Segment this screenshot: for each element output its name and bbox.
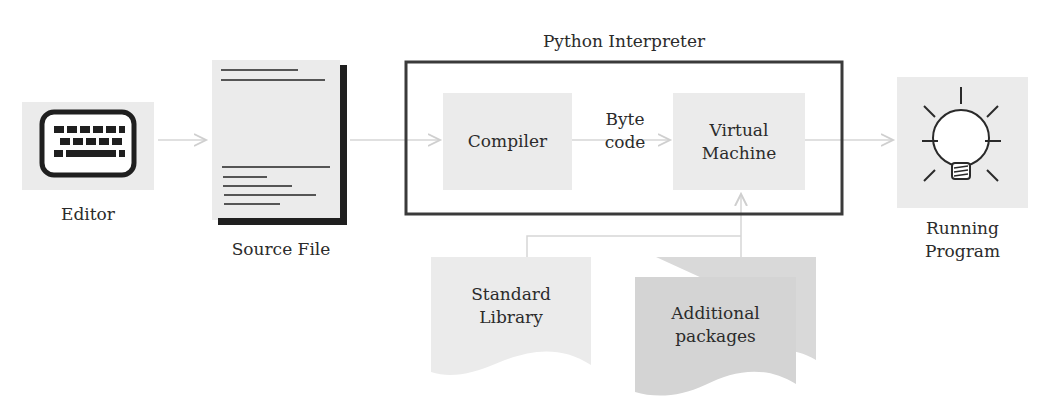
connector-libraries-to-vm: [527, 236, 741, 258]
lightbulb-icon: [897, 77, 1028, 208]
byte-code-label: Byte code: [590, 108, 660, 154]
standard-library-label: Standard Library: [431, 283, 591, 329]
keyboard-icon: [22, 102, 154, 190]
additional-packages-label: Additional packages: [635, 302, 796, 348]
editor-label: Editor: [22, 203, 154, 225]
document-icon: [212, 60, 352, 230]
compiler-node: Compiler: [443, 93, 572, 190]
source-file-label: Source File: [206, 238, 356, 260]
editor-node: [22, 102, 154, 190]
running-program-node: [897, 77, 1028, 208]
interpreter-title: Python Interpreter: [406, 30, 842, 52]
connectors-layer: [0, 0, 1053, 409]
virtual-machine-node: Virtual Machine: [673, 93, 805, 190]
source-file-node: [212, 60, 352, 230]
compiler-label: Compiler: [468, 130, 547, 153]
running-program-label: Running Program: [897, 217, 1028, 263]
